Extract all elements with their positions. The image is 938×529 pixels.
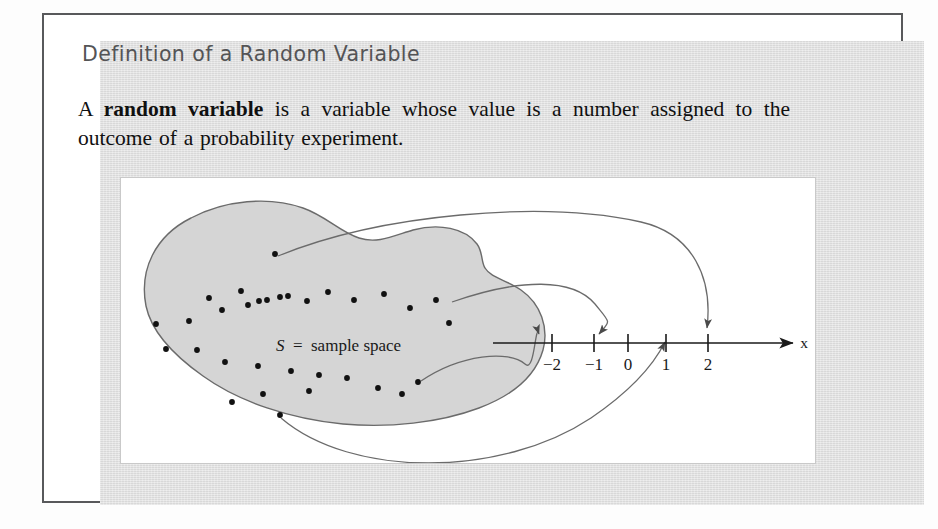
tick-label-minus-1: −1: [585, 355, 603, 374]
sample-point: [264, 297, 270, 303]
tick-label-0: 0: [624, 355, 633, 374]
sample-point: [415, 379, 421, 385]
definition-lead: A: [78, 97, 104, 121]
sample-point: [206, 295, 212, 301]
sample-point: [304, 298, 310, 304]
sample-point: [407, 305, 413, 311]
sample-space-symbol: S: [276, 336, 285, 355]
sample-point: [399, 391, 405, 397]
page-root: Definition of a Random Variable A random…: [0, 0, 938, 529]
sample-point: [153, 321, 159, 327]
diagram-panel: S = sample space: [120, 177, 816, 464]
sample-point: [277, 412, 283, 418]
sample-point: [288, 368, 294, 374]
tick-label-1: 1: [662, 355, 671, 374]
sample-point: [256, 298, 262, 304]
sample-point: [255, 363, 261, 369]
tick-label-minus-2: −2: [543, 355, 561, 374]
sample-point: [222, 359, 228, 365]
sample-point: [186, 318, 192, 324]
sample-point: [285, 293, 291, 299]
sample-point: [245, 302, 251, 308]
sample-point: [163, 346, 169, 352]
sample-point: [446, 320, 452, 326]
sample-point: [316, 372, 322, 378]
tick-label-2: 2: [704, 355, 713, 374]
sample-point: [238, 288, 244, 294]
sample-point: [260, 391, 266, 397]
sample-space-text: sample space: [311, 336, 401, 355]
sample-point: [351, 297, 357, 303]
definition-text: A random variable is a variable whose va…: [78, 95, 790, 153]
sample-point: [344, 375, 350, 381]
definition-term: random variable: [104, 97, 264, 121]
sample-point: [194, 347, 200, 353]
sample-point: [375, 385, 381, 391]
sample-point: [325, 289, 331, 295]
random-variable-diagram: S = sample space: [121, 178, 815, 463]
page-title: Definition of a Random Variable: [82, 42, 420, 66]
sample-point: [219, 307, 225, 313]
sample-point: [272, 251, 278, 257]
sample-point: [433, 297, 439, 303]
sample-point: [277, 294, 283, 300]
sample-point: [229, 399, 235, 405]
sample-space-equals: =: [293, 336, 303, 355]
axis-variable-label: x: [800, 334, 808, 351]
sample-point: [381, 291, 387, 297]
sample-point: [306, 388, 312, 394]
